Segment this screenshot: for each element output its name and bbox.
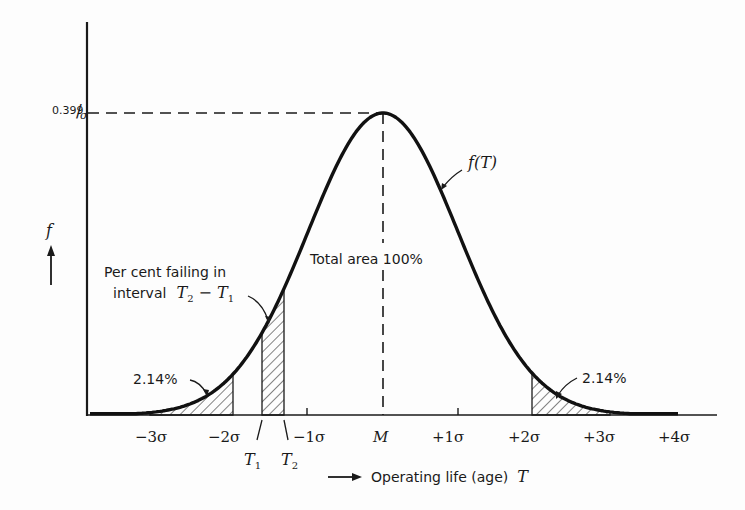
interval-shaded-area [262, 289, 284, 415]
tick-label-plus-1-sigma: +1σ [432, 428, 464, 446]
left-tail-pointer [190, 380, 206, 393]
left-tail-label: 2.14% [133, 371, 177, 387]
peak-value-sigma: σ [80, 109, 88, 122]
curve-label-pointer [443, 170, 462, 187]
y-axis-up-arrow-icon [47, 245, 55, 256]
total-area-label: Total area 100% [309, 251, 423, 267]
right-tail-label: 2.14% [582, 370, 626, 386]
interval-label-line2: interval T2 − T1 [113, 283, 234, 304]
tick-label-minus-2-sigma: −2σ [208, 428, 240, 446]
y-axis-symbol: f [45, 221, 55, 240]
tick-label-plus-3-sigma: +3σ [583, 428, 615, 446]
x-caption-right-arrow-icon [352, 473, 362, 481]
t1-label: T1 [244, 450, 261, 471]
t1-marker-line [257, 420, 262, 440]
curve-label: f(T) [467, 153, 497, 172]
tick-label-plus-2-sigma: +2σ [508, 428, 540, 446]
interval-label-pointer [248, 296, 268, 320]
tick-label-mean: M [372, 428, 389, 446]
tick-label-minus-3-sigma: −3σ [135, 428, 167, 446]
tick-label-minus-1-sigma: −1σ [293, 428, 325, 446]
t2-marker-line [284, 420, 288, 440]
t2-label: T2 [281, 450, 298, 471]
tick-label-plus-4-sigma: +4σ [658, 428, 690, 446]
x-axis-caption: Operating life (age) T [371, 467, 529, 486]
normal-distribution-diagram: 0.399 / σ f f(T) Total area 100% Per cen… [0, 0, 745, 510]
interval-label-line1: Per cent failing in [104, 264, 226, 280]
right-tail-pointer [558, 378, 577, 395]
